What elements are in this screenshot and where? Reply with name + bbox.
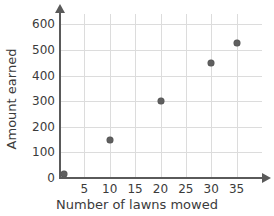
x-axis-tick-label: 25 [173,183,199,195]
x-axis-arrow-icon [262,173,271,183]
gridline-vertical [84,14,85,178]
gridline-vertical [186,14,187,178]
x-axis-tick-label: 5 [71,183,97,195]
y-axis-tick-label: 300 [25,95,55,107]
y-axis-tick-label: 200 [25,121,55,133]
x-axis-tick-labels: 5101520253035 [0,183,274,197]
gridline-vertical [211,14,212,178]
scatter-chart: 0100200300400500600 5101520253035 Amount… [0,0,274,216]
x-axis-tick-label: 20 [148,183,174,195]
plot-area [59,14,262,178]
x-axis-tick-label: 30 [198,183,224,195]
gridline-vertical [135,14,136,178]
y-axis-title: Amount earned [5,39,19,159]
y-axis-tick-label: 100 [25,146,55,158]
y-axis-tick-label: 500 [25,44,55,56]
y-axis-tick-label: 400 [25,70,55,82]
data-point [107,137,113,143]
data-point [158,98,164,104]
x-axis-tick-label: 15 [122,183,148,195]
x-axis-line [59,177,264,179]
x-axis-title: Number of lawns mowed [0,198,274,212]
data-point [234,40,240,46]
y-axis-arrow-icon [55,4,65,13]
x-axis-tick-label: 35 [224,183,250,195]
gridline-vertical [237,14,238,178]
gridline-vertical [161,14,162,178]
x-axis-tick-label: 10 [97,183,123,195]
y-axis-tick-label: 600 [25,18,55,30]
gridline-vertical [110,14,111,178]
y-axis-line [59,12,61,179]
data-point [208,60,214,66]
